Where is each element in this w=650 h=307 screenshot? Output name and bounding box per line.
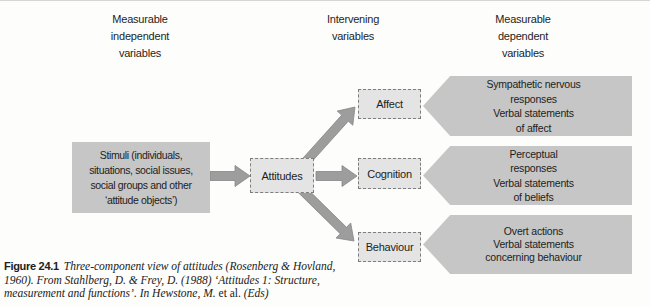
figure-caption-eds: (Eds) — [241, 287, 269, 299]
arrow-stimuli-to-attitudes — [210, 166, 250, 187]
figure-caption: Figure 24.1Three-component view of attit… — [4, 260, 424, 301]
arrow-attitudes-to-behaviour — [298, 186, 354, 241]
figure-caption-etal: et al. — [219, 287, 241, 299]
behaviour-box: Behaviour — [358, 232, 421, 262]
affect-responses-banner: Sympathetic nervous responses Verbal sta… — [423, 76, 632, 136]
arrow-attitudes-to-cognition — [316, 166, 357, 187]
cognition-box: Cognition — [358, 158, 421, 189]
figure-24-1-diagram: Measurable independent variables Interve… — [0, 0, 650, 307]
affect-box: Affect — [358, 89, 421, 119]
attitudes-box: Attitudes — [250, 158, 314, 193]
behaviour-responses-banner: Overt actions Verbal statements concerni… — [423, 215, 632, 274]
stimuli-box: Stimuli (individuals, situations, social… — [72, 142, 210, 213]
figure-caption-label: Figure 24.1 — [4, 260, 59, 272]
cognition-responses-banner: Perceptual responses Verbal statements o… — [423, 146, 632, 205]
